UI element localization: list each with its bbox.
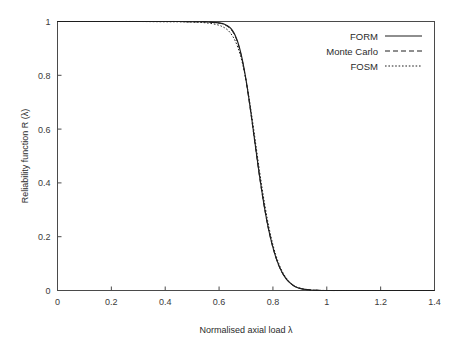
y-tick-label: 0.4: [38, 178, 51, 188]
legend-label-monte-carlo: Monte Carlo: [326, 46, 378, 57]
legend-label-fosm: FOSM: [351, 61, 379, 72]
x-tick-label: 0.6: [213, 297, 226, 307]
x-tick-label: 1: [324, 297, 329, 307]
y-tick-label: 0.8: [38, 71, 51, 81]
figure-background: [0, 0, 451, 343]
y-tick-label: 1: [45, 17, 50, 27]
y-axis-title: Reliability function R (λ): [20, 109, 30, 204]
x-tick-label: 1.4: [428, 297, 441, 307]
x-tick-label: 0: [55, 297, 60, 307]
x-tick-label: 0.8: [267, 297, 280, 307]
reliability-chart-figure: 00.20.40.60.811.21.4 00.20.40.60.81 Norm…: [0, 0, 451, 343]
y-tick-label: 0.6: [38, 125, 51, 135]
legend-label-form: FORM: [350, 31, 378, 42]
chart-canvas: 00.20.40.60.811.21.4 00.20.40.60.81 Norm…: [0, 0, 451, 343]
x-tick-label: 1.2: [374, 297, 387, 307]
x-axis-title: Normalised axial load λ: [199, 325, 293, 335]
y-tick-label: 0: [45, 286, 50, 296]
x-tick-label: 0.4: [159, 297, 172, 307]
x-tick-label: 0.2: [105, 297, 118, 307]
y-tick-label: 0.2: [38, 232, 51, 242]
